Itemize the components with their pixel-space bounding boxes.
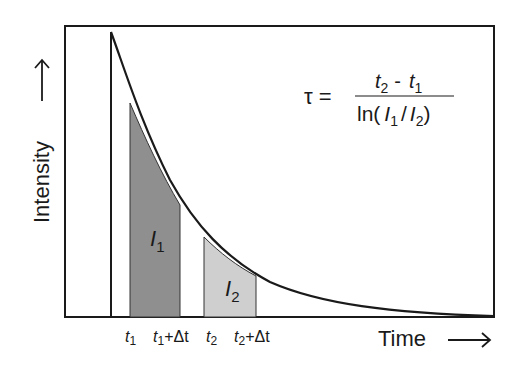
tick-t1-plus-dt: t1+Δt	[153, 328, 189, 348]
y-axis-label: Intensity	[29, 141, 54, 223]
formula-lhs: τ =	[304, 84, 332, 109]
lifetime-formula: τ = t2-t1 ln(I1/I2)	[304, 70, 454, 129]
formula-numerator: t2-t1	[375, 70, 423, 96]
plot-frame	[65, 26, 494, 317]
tick-t2: t2	[206, 328, 217, 348]
x-axis-label: Time	[378, 326, 426, 351]
y-axis-arrow-icon	[35, 60, 49, 101]
region-i1	[130, 103, 180, 317]
tick-t1: t1	[125, 328, 136, 348]
x-axis-arrow-icon	[448, 333, 490, 347]
tick-t2-plus-dt: t2+Δt	[234, 328, 270, 348]
decay-diagram: I1 I2 τ = t2-t1 ln(I1/I2) t1 t1+Δt t2 t2…	[0, 0, 523, 365]
formula-denominator: ln(I1/I2)	[357, 102, 430, 129]
